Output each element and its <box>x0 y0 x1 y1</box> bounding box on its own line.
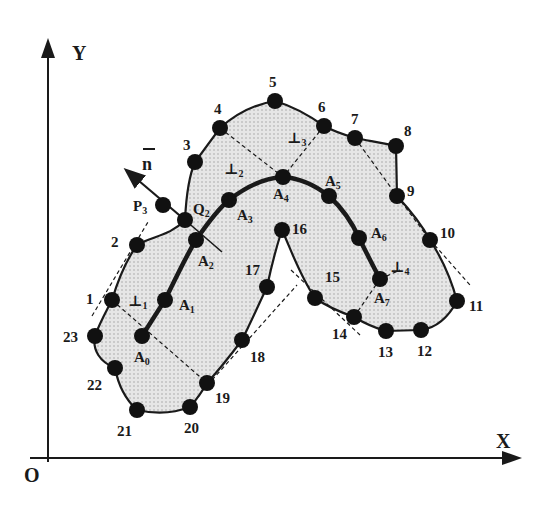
boundary-point-label-19: 19 <box>215 390 230 406</box>
boundary-point-label-21: 21 <box>117 423 132 439</box>
boundary-point-label-15: 15 <box>325 269 340 285</box>
x-axis-label: X <box>496 430 511 452</box>
origin-label: O <box>24 464 40 486</box>
normal-vector-label: n <box>142 154 152 174</box>
medial-point-a1 <box>157 292 173 308</box>
boundary-point-16 <box>274 222 290 238</box>
boundary-point-label-6: 6 <box>318 99 326 115</box>
boundary-point-label-17: 17 <box>245 262 261 278</box>
medial-point-a2 <box>188 232 204 248</box>
special-point-p3 <box>155 197 171 213</box>
boundary-point-label-20: 20 <box>184 420 199 436</box>
boundary-point-10 <box>422 232 438 248</box>
boundary-point-12 <box>413 322 429 338</box>
boundary-point-label-23: 23 <box>63 329 78 345</box>
y-axis-label: Y <box>72 42 87 64</box>
boundary-point-label-7: 7 <box>351 111 359 127</box>
boundary-point-11 <box>449 293 465 309</box>
medial-point-a5 <box>321 188 337 204</box>
boundary-point-20 <box>182 399 198 415</box>
boundary-point-6 <box>316 118 332 134</box>
medial-point-a3 <box>221 192 237 208</box>
boundary-point-label-14: 14 <box>332 326 348 342</box>
boundary-point-3 <box>187 154 203 170</box>
boundary-point-label-5: 5 <box>269 74 277 90</box>
boundary-point-18 <box>234 332 250 348</box>
boundary-point-label-13: 13 <box>378 344 393 360</box>
boundary-point-9 <box>389 188 405 204</box>
boundary-point-label-3: 3 <box>183 137 191 153</box>
boundary-point-label-22: 22 <box>87 377 102 393</box>
boundary-point-label-2: 2 <box>111 234 119 250</box>
medial-point-a4 <box>275 169 291 185</box>
boundary-point-19 <box>199 375 215 391</box>
boundary-point-label-8: 8 <box>404 123 412 139</box>
x-axis-arrow-icon <box>502 451 522 465</box>
boundary-point-13 <box>378 323 394 339</box>
boundary-point-label-4: 4 <box>214 101 222 117</box>
medial-point-a7 <box>372 271 388 287</box>
boundary-point-15 <box>307 290 323 306</box>
diagram-canvas: 1234567891011121314151617181920212223A0A… <box>0 0 548 513</box>
y-axis-arrow-icon <box>41 38 55 58</box>
medial-point-a6 <box>351 230 367 246</box>
boundary-point-17 <box>259 279 275 295</box>
boundary-point-22 <box>107 360 123 376</box>
boundary-point-label-10: 10 <box>440 225 455 241</box>
boundary-point-label-16: 16 <box>292 221 308 237</box>
medial-point-a0 <box>134 328 150 344</box>
boundary-point-5 <box>267 93 283 109</box>
boundary-point-14 <box>346 309 362 325</box>
boundary-point-label-11: 11 <box>469 298 483 314</box>
special-point-q2 <box>177 212 193 228</box>
boundary-point-label-12: 12 <box>417 343 432 359</box>
boundary-point-label-9: 9 <box>407 183 415 199</box>
boundary-point-label-18: 18 <box>250 349 265 365</box>
boundary-point-21 <box>129 402 145 418</box>
boundary-point-8 <box>388 138 404 154</box>
boundary-point-7 <box>347 130 363 146</box>
boundary-point-2 <box>129 237 145 253</box>
boundary-point-4 <box>212 120 228 136</box>
boundary-point-label-1: 1 <box>86 291 94 307</box>
boundary-point-1 <box>104 292 120 308</box>
special-point-label-p3: P3 <box>133 198 147 216</box>
boundary-point-23 <box>87 328 103 344</box>
